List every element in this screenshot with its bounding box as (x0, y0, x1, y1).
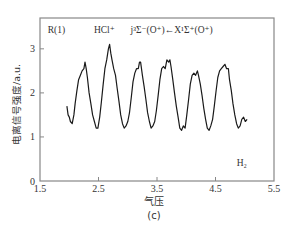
x-axis-ticks: 1.52.53.54.55.5 (34, 177, 281, 194)
annotation-label: H₂ (237, 158, 247, 168)
y-tick-label: 3 (30, 43, 35, 54)
x-tick-label: 5.5 (268, 183, 281, 194)
annotation-label: j³Σ⁻(O⁺)←X¹Σ⁺(O⁺) (130, 25, 213, 36)
y-tick-label: 1 (30, 131, 35, 142)
annotation-label: R(1) (48, 25, 65, 36)
x-tick-label: 4.5 (209, 183, 222, 194)
chart-annotations: R(1)HCl⁺j³Σ⁻(O⁺)←X¹Σ⁺(O⁺)H₂ (48, 25, 247, 167)
figure-caption: (c) (147, 210, 160, 221)
x-tick-label: 2.5 (92, 183, 105, 194)
y-tick-label: 2 (30, 87, 35, 98)
signal-curve (67, 44, 247, 130)
x-axis-label: 气压 (144, 195, 164, 207)
x-tick-label: 3.5 (151, 183, 164, 194)
y-axis-ticks: 0123 (30, 43, 44, 186)
y-tick-label: 0 (30, 176, 35, 187)
chart-canvas: 1.52.53.54.55.5 0123 R(1)HCl⁺j³Σ⁻(O⁺)←X¹… (0, 0, 291, 234)
x-tick-label: 1.5 (34, 183, 47, 194)
y-axis-label: 电离信号强度/a.u. (11, 64, 22, 145)
annotation-label: HCl⁺ (94, 25, 115, 35)
